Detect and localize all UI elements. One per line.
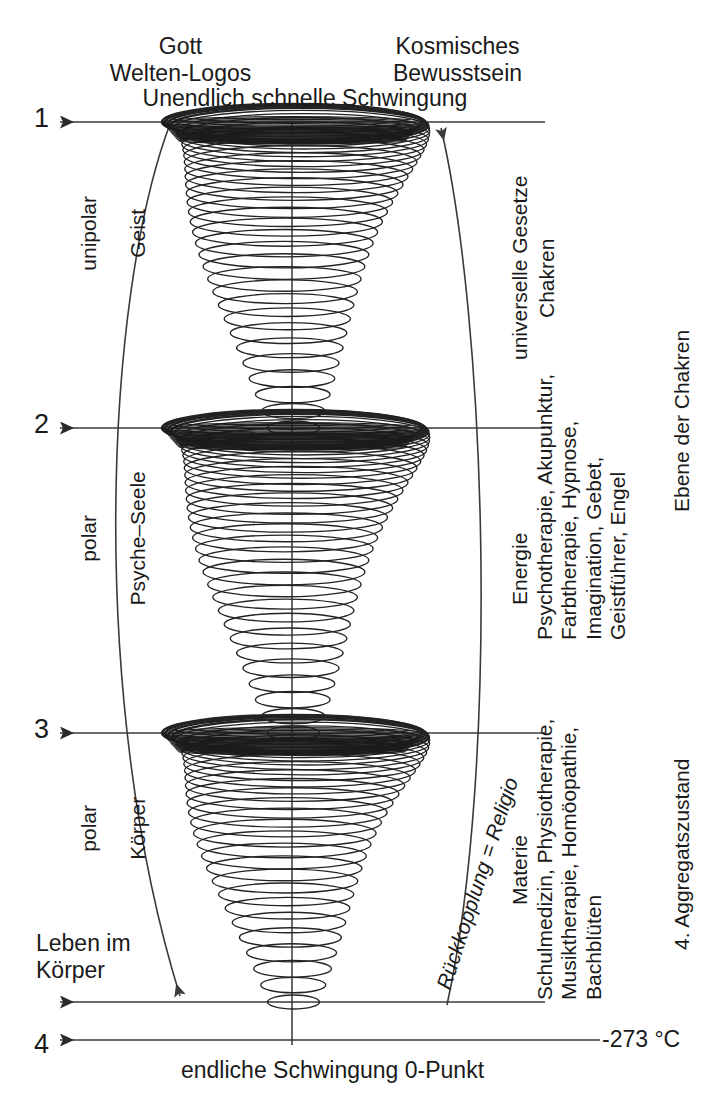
leben-im-koerper-label: Leben imKörper <box>36 930 131 984</box>
outer-right-label-aggregat: 4. Aggregatszustand <box>670 759 695 950</box>
left-section-3-line2: Körper <box>126 797 149 860</box>
right-section-2-detail: Psychotherapie, Akupunktur,Farbtherapie,… <box>533 374 630 640</box>
top-left-label: GottWelten-Logos <box>88 33 273 87</box>
diagram-canvas: GottWelten-Logos KosmischesBewusstsein U… <box>0 0 711 1113</box>
vibration-spirals <box>162 104 430 1009</box>
level-marker-1: 1 <box>34 103 49 135</box>
left-section-1-label: unipolar Geist <box>52 130 176 360</box>
level-marker-2: 2 <box>34 409 49 441</box>
right-section-1-name: universelle Gesetze <box>508 176 533 360</box>
diagram-title: Unendlich schnelle Schwingung <box>120 85 490 112</box>
right-section-2-name: Energie <box>508 533 533 605</box>
right-section-3-name: Materie <box>508 835 533 905</box>
left-section-2-label: polar Psyche–Seele <box>52 435 176 665</box>
right-section-3-detail: Schulmedizin, Physiotherapie,Musiktherap… <box>533 719 606 1000</box>
bottom-caption: endliche Schwingung 0-Punkt <box>181 1057 484 1084</box>
left-section-3-line1: polar <box>77 805 100 852</box>
level-marker-3: 3 <box>34 714 49 746</box>
top-right-label: KosmischesBewusstsein <box>355 33 560 87</box>
left-section-1-line1: unipolar <box>77 196 100 271</box>
temperature-label: -273 °C <box>602 1026 680 1053</box>
left-section-1-line2: Geist <box>126 209 149 258</box>
right-section-1-detail: Chakren <box>535 239 560 318</box>
left-section-3-label: polar Körper <box>52 735 176 945</box>
outer-right-label-chakren: Ebene der Chakren <box>670 330 695 512</box>
level-marker-4: 4 <box>34 1029 49 1061</box>
left-section-2-line2: Psyche–Seele <box>126 471 149 605</box>
left-section-2-line1: polar <box>77 515 100 562</box>
